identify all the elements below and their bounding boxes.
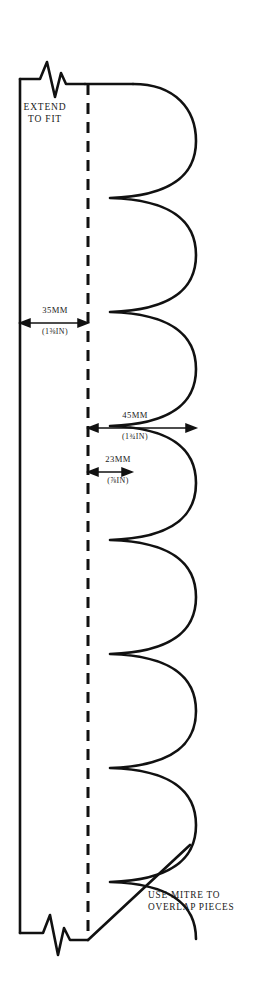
scalloped-edge [110, 84, 196, 939]
dimension-35mm-metric: 35MM [42, 305, 67, 315]
break-symbol-top [20, 62, 85, 97]
extend-to-fit-label: EXTEND TO FIT [14, 101, 76, 126]
pattern-diagram: EXTEND TO FIT 35MM (1⅜IN) 45MM (1¾IN) 23… [0, 0, 264, 998]
dimension-45mm-metric: 45MM [122, 410, 147, 420]
dimension-label-35mm: 35MM (1⅜IN) [20, 295, 90, 337]
dimension-label-45mm: 45MM (1¾IN) [96, 400, 174, 442]
dimension-23mm-metric: 23MM [105, 454, 130, 464]
break-symbol-bottom [20, 915, 88, 955]
dimension-label-23mm: 23MM (⅞IN) [88, 444, 148, 486]
dimension-45mm-imperial: (1¾IN) [122, 432, 148, 441]
dimension-35mm-imperial: (1⅜IN) [42, 327, 68, 336]
diagram-canvas [0, 0, 264, 998]
mitre-note-label: USE MITRE TO OVERLAP PIECES [148, 889, 264, 914]
dimension-23mm-imperial: (⅞IN) [107, 476, 129, 485]
